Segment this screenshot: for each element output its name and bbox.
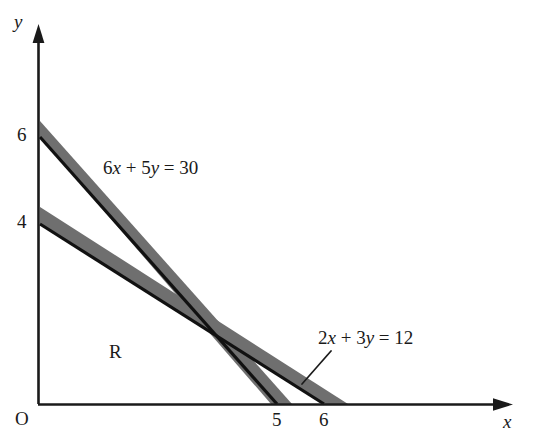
eq1-var-x: x [113, 157, 121, 178]
eq2-var-y: y [366, 327, 374, 348]
eq1-rhs: 30 [179, 157, 198, 178]
feasible-region-label: R [109, 342, 122, 361]
y-axis-arrowhead [33, 24, 45, 43]
eq2-var-x: x [328, 327, 336, 348]
equation-label-2x-3y-12: 2x + 3y = 12 [318, 328, 413, 347]
eq1-coef-a: 6 [103, 157, 113, 178]
eq1-var-y: y [151, 157, 159, 178]
eq1-coef-b: 5 [141, 157, 151, 178]
eq2-equals: = [379, 327, 390, 348]
origin-label: O [15, 409, 29, 428]
eq2-coef-b: 3 [356, 327, 366, 348]
equation-label-6x-5y-30: 6x + 5y = 30 [103, 158, 198, 177]
x-tick-label-5: 5 [272, 410, 282, 429]
eq1-equals: = [164, 157, 175, 178]
plot-area [0, 0, 533, 446]
eq2-rhs: 12 [394, 327, 413, 348]
eq2-plus: + [341, 327, 352, 348]
y-axis-label: y [14, 12, 22, 31]
leader-line-2x-3y-12 [302, 351, 331, 384]
constraint-line-2x-3y-12 [40, 224, 324, 404]
x-tick-label-6: 6 [319, 410, 329, 429]
shade-band-2x-3y-12 [40, 207, 348, 404]
linear-programming-figure: y x O 6 4 5 6 R 6x + 5y = 30 2x + 3y = 1… [0, 0, 533, 446]
x-axis-label: x [503, 412, 511, 431]
eq2-coef-a: 2 [318, 327, 328, 348]
y-tick-label-6: 6 [17, 125, 27, 144]
x-axis-arrowhead [493, 398, 513, 410]
y-tick-label-4: 4 [17, 212, 27, 231]
eq1-plus: + [126, 157, 137, 178]
